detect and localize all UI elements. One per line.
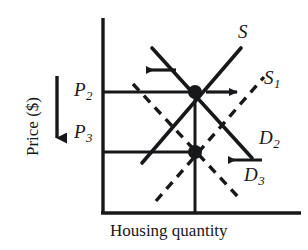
label-supply-shifted-text: S — [264, 67, 274, 88]
label-price-p3-sub: 3 — [86, 130, 92, 145]
equilibrium-point-upper — [188, 85, 202, 99]
label-price-p3: P3 — [74, 122, 93, 145]
label-demand-shifted-text: D — [244, 164, 258, 185]
label-demand-original-text: D — [259, 127, 273, 148]
label-demand-shifted: D3 — [244, 165, 265, 188]
axis-group — [101, 18, 301, 214]
x-axis-title: Housing quantity — [110, 222, 228, 239]
label-supply-original: S — [238, 22, 248, 45]
label-supply-original-text: S — [238, 21, 248, 42]
demand-curve-shifted — [133, 84, 240, 199]
supply-demand-figure: S S1 D2 D3 P2 P3 Price ($) Housing quant… — [0, 0, 308, 250]
diagram-canvas — [0, 0, 308, 250]
label-demand-shifted-sub: 3 — [258, 173, 264, 188]
label-price-p2-text: P — [74, 79, 86, 100]
label-demand-original-sub: 2 — [273, 136, 279, 151]
label-price-p2: P2 — [74, 80, 93, 103]
label-price-p2-sub: 2 — [86, 88, 92, 103]
label-price-p3-text: P — [74, 121, 86, 142]
label-demand-original: D2 — [259, 128, 280, 151]
equilibrium-point-lower — [188, 145, 202, 159]
y-axis-title: Price ($) — [24, 73, 41, 181]
label-supply-shifted-sub: 1 — [274, 76, 280, 91]
label-supply-shifted: S1 — [264, 68, 280, 91]
demand-curve-original — [152, 48, 252, 158]
